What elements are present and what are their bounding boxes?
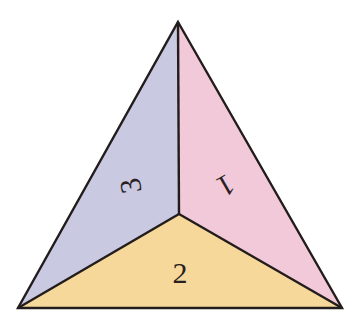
face-label-2: 2 <box>173 256 188 289</box>
triangle-diagram: 3 1 2 <box>0 0 352 328</box>
